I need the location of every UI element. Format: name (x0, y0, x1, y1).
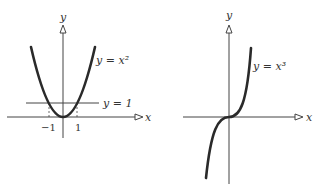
left-x-arrow-icon (135, 114, 143, 120)
right-y-axis-label: y (225, 9, 233, 22)
left-x-axis-label: x (145, 111, 152, 124)
right-x-axis-label: x (306, 111, 313, 124)
line-label: y = 1 (102, 97, 132, 110)
figure: y x y = 1 y = x² −1 1 y x y = x³ (0, 0, 320, 188)
tick-label-1: 1 (75, 122, 81, 133)
cubic-label: y = x³ (252, 60, 286, 73)
right-y-arrow-icon (226, 25, 232, 33)
right-x-arrow-icon (295, 114, 303, 120)
left-y-axis-label: y (59, 11, 67, 24)
left-y-arrow-icon (60, 25, 66, 33)
left-graph: y x y = 1 y = x² −1 1 (7, 11, 152, 138)
right-graph: y x y = x³ (183, 9, 313, 184)
parabola-label: y = x² (95, 54, 129, 67)
tick-label-neg1: −1 (41, 122, 56, 133)
